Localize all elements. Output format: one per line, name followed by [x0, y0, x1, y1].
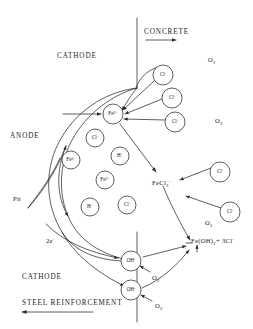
species-label-oh-lower-2: OH-	[127, 287, 136, 292]
cl-far2-arrow	[186, 196, 221, 208]
label-product: Fe(OH)2+ 3Cl-	[191, 238, 234, 246]
species-label-fe-center: Fe2+	[108, 111, 117, 116]
electron-path-2	[46, 224, 118, 258]
electrons-charge: -	[53, 237, 55, 242]
diagram-canvas: CONCRETE CATHODE ANODE Pit CATHODE STEEL…	[0, 0, 253, 329]
label-o2-oh-lower: O2	[155, 303, 163, 311]
species-label-cl-pit-1: Cl-	[92, 135, 98, 140]
label-o2-top-right: O2	[208, 57, 216, 65]
species-label-cl-top-3: Cl-	[172, 119, 178, 124]
electrons-text: 2e	[46, 237, 53, 244]
species-label-h-pit-1: H+	[117, 153, 123, 158]
o2-to-oh2-arrow	[141, 295, 152, 301]
species-label-h-pit-2: H+	[87, 204, 93, 209]
species-label-cl-top-1: Cl-	[160, 72, 166, 77]
product-charge: -	[232, 237, 234, 242]
species-label-fe-pit-2: Fe2+	[100, 177, 109, 182]
label-fecl3: FeCl3-	[152, 180, 170, 188]
fe-to-fecl3-arrow	[120, 124, 156, 172]
label-cathode-top: CATHODE	[57, 53, 97, 60]
species-label-cl-top-2: Cl-	[169, 95, 175, 100]
species-label-oh-lower-1: OH-	[127, 258, 136, 263]
product-text: Fe(OH)	[191, 237, 213, 244]
cl-far1-arrow	[180, 168, 211, 180]
label-cathode-bottom: CATHODE	[22, 274, 62, 281]
fecl3-to-product-arrow	[163, 186, 190, 240]
product-plus: + 3Cl	[216, 237, 232, 244]
label-anode: ANODE	[10, 133, 40, 140]
label-steel-reinforcement: STEEL REINFORCEMENT	[22, 300, 123, 307]
cl2-to-fe-arrow	[125, 99, 162, 114]
species-label-fe-pit-1: Fe2+	[66, 157, 75, 162]
label-electrons: 2e-	[46, 238, 55, 245]
label-concrete: CONCRETE	[144, 29, 189, 36]
pit-leader-1	[28, 146, 66, 208]
species-bubble-group	[62, 65, 240, 300]
fecl3-text: FeCl	[152, 179, 166, 186]
species-label-cl-far-2: Cl-	[227, 209, 233, 214]
o2-to-oh1-arrow	[140, 266, 150, 272]
species-label-cl-far-1: Cl-	[217, 169, 223, 174]
pit-leader-2	[28, 158, 60, 208]
fecl3-charge: -	[169, 179, 171, 184]
cl3-to-fe-arrow	[124, 119, 165, 120]
species-label-cl-pit-2: Cl-	[124, 202, 130, 207]
label-pit: Pit	[13, 196, 21, 203]
cl1-to-fe-arrow	[123, 80, 155, 110]
label-o2-mid-right: O2	[215, 118, 223, 126]
label-o2-low-right: O2	[205, 220, 213, 228]
label-o2-oh-upper: O2	[152, 275, 160, 283]
electron-path-3	[62, 232, 124, 286]
oh1-to-product-arrow	[143, 246, 186, 257]
